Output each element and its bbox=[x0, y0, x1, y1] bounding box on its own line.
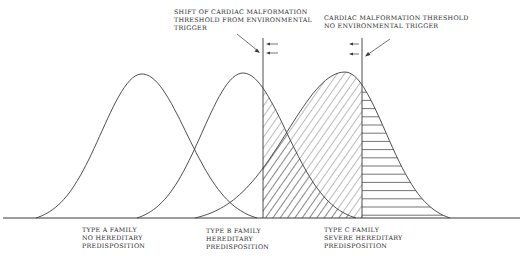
shaded-regions bbox=[263, 40, 452, 218]
type-c-base-affected-region bbox=[362, 84, 452, 215]
base-threshold-annotation: CARDIAC MALFORMATION THRESHOLD NO ENVIRO… bbox=[324, 14, 471, 29]
shift-arrows-left bbox=[266, 43, 278, 55]
type-b-family-label: TYPE B FAMILY HEREDITARY PREDISPOSITION bbox=[206, 227, 269, 250]
liability-threshold-diagram: SHIFT OF CARDIAC MALFORMATION THRESHOLD … bbox=[0, 0, 524, 256]
type-c-family-label: TYPE C FAMILY SEVERE HEREDITARY PREDISPO… bbox=[324, 226, 405, 249]
shift-arrows-right bbox=[349, 43, 359, 56]
shift-threshold-annotation: SHIFT OF CARDIAC MALFORMATION THRESHOLD … bbox=[174, 8, 314, 31]
curve-type-a bbox=[36, 74, 257, 218]
base-annotation-pointer bbox=[365, 39, 390, 57]
shift-annotation-pointer bbox=[237, 34, 260, 53]
type-a-family-label: TYPE A FAMILY NO HEREDITARY PREDISPOSITI… bbox=[82, 226, 145, 249]
